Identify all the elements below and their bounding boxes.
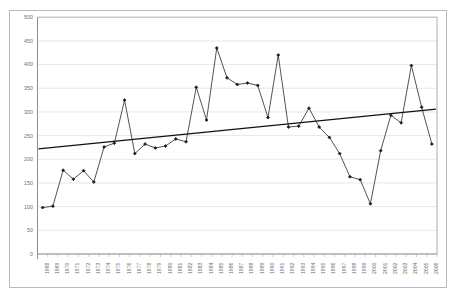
x-tick-label: 1988: [249, 263, 254, 274]
x-tick-label: 1971: [75, 263, 80, 274]
y-tick-label: 350: [11, 85, 33, 91]
y-tick-label: 500: [11, 14, 33, 20]
line-chart-plot: [0, 0, 458, 300]
x-tick-label: 1990: [270, 263, 275, 274]
chart-figure: 500450400350300250200150100500 196819691…: [0, 0, 458, 300]
x-tick-label: 2002: [393, 263, 398, 274]
x-tick-label: 2004: [413, 263, 418, 274]
x-tick-label: 1973: [96, 263, 101, 274]
x-tick-label: 1980: [168, 263, 173, 274]
x-tick-label: 1992: [290, 263, 295, 274]
x-tick-label: 1984: [209, 263, 214, 274]
data-markers: [41, 46, 433, 209]
x-tick-label: 1991: [280, 263, 285, 274]
y-tick-label: 50: [11, 227, 33, 233]
x-tick-label: 1976: [127, 263, 132, 274]
trendline: [39, 109, 437, 149]
x-tick-label: 1997: [342, 263, 347, 274]
x-tick-label: 1969: [55, 263, 60, 274]
x-tick-label: 1974: [106, 263, 111, 274]
gridlines: [38, 41, 438, 254]
x-tick-label: 1989: [260, 263, 265, 274]
x-tick-label: 1994: [311, 263, 316, 274]
y-tick-label: 0: [11, 251, 33, 257]
y-tick-label: 250: [11, 133, 33, 139]
x-tick-label: 2000: [372, 263, 377, 274]
y-tick-label: 200: [11, 156, 33, 162]
y-tick-label: 100: [11, 204, 33, 210]
y-tick-label: 300: [11, 109, 33, 115]
x-tick-label: 1977: [137, 263, 142, 274]
data-line: [43, 48, 432, 208]
x-tick-label: 2003: [403, 263, 408, 274]
x-tick-label: 2006: [434, 263, 439, 274]
y-tick-label: 450: [11, 38, 33, 44]
x-tick-label: 1979: [157, 263, 162, 274]
x-tick-label: 1978: [147, 263, 152, 274]
x-tick-label: 1972: [86, 263, 91, 274]
x-tick-label: 1998: [352, 263, 357, 274]
x-tick-label: 1970: [65, 263, 70, 274]
x-tick-label: 2001: [383, 263, 388, 274]
x-tick-label: 1983: [198, 263, 203, 274]
y-tick-label: 150: [11, 180, 33, 186]
x-tick-label: 1996: [331, 263, 336, 274]
y-tick-label: 400: [11, 61, 33, 67]
x-tick-label: 1985: [219, 263, 224, 274]
x-tick-label: 1968: [45, 263, 50, 274]
x-tick-label: 1975: [116, 263, 121, 274]
x-tick-label: 2005: [424, 263, 429, 274]
x-tick-label: 1986: [229, 263, 234, 274]
x-tick-label: 1995: [321, 263, 326, 274]
x-tick-label: 1999: [362, 263, 367, 274]
x-tick-label: 1982: [188, 263, 193, 274]
x-tick-label: 1981: [178, 263, 183, 274]
x-tick-label: 1987: [239, 263, 244, 274]
x-tick-label: 1993: [301, 263, 306, 274]
